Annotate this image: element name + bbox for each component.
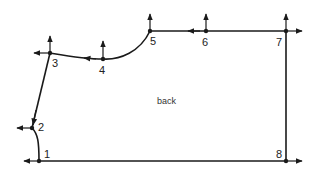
point-label-3: 3 bbox=[52, 57, 58, 69]
direction-arrows bbox=[17, 14, 302, 161]
point-label-6: 6 bbox=[202, 36, 208, 48]
point-6 bbox=[204, 29, 208, 33]
point-8 bbox=[284, 159, 288, 163]
point-label-1: 1 bbox=[44, 148, 50, 160]
curve-5-4-3 bbox=[50, 31, 150, 59]
point-5 bbox=[148, 29, 152, 33]
point-label-4: 4 bbox=[99, 64, 105, 76]
point-7 bbox=[284, 29, 288, 33]
point-label-8: 8 bbox=[276, 148, 282, 160]
point-label-7: 7 bbox=[276, 36, 282, 48]
point-3 bbox=[48, 51, 52, 55]
pattern-diagram: 1 2 3 4 5 6 7 8 back bbox=[0, 0, 317, 174]
point-2 bbox=[30, 126, 34, 130]
piece-label: back bbox=[157, 96, 177, 106]
point-1 bbox=[37, 159, 41, 163]
point-label-2: 2 bbox=[38, 121, 44, 133]
point-label-5: 5 bbox=[150, 35, 156, 47]
arrow-down-icon bbox=[33, 110, 36, 125]
point-4 bbox=[101, 57, 105, 61]
